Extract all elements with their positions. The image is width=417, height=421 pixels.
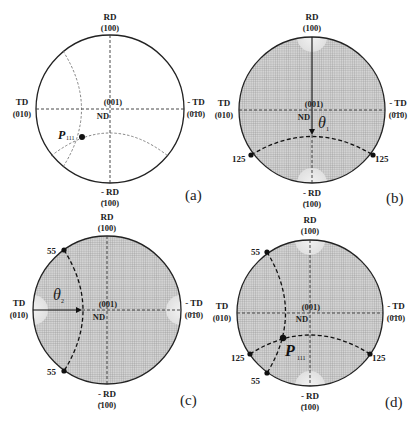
marker-label-55-bottom: 55 — [251, 376, 261, 386]
pole-point-p111 — [280, 335, 286, 341]
panel-tag-d: (d) — [385, 394, 403, 411]
label-center-001: (001) — [302, 302, 321, 312]
label-nd: ND — [97, 111, 109, 121]
label-neg-td-index: (0̄1̄0) — [389, 110, 408, 120]
label-neg-td-index: (0̄1̄0) — [185, 310, 204, 320]
theta-subscript: 2 — [61, 298, 64, 304]
label-rd: RD — [101, 212, 114, 222]
label-rd-index: (100) — [98, 223, 117, 233]
marker-label-55-bottom: 55 — [47, 367, 57, 377]
label-rd-index: (100) — [101, 23, 120, 33]
label-td: TD — [13, 298, 26, 308]
marker-label-125-left: 125 — [231, 353, 245, 363]
label-td: TD — [16, 97, 29, 107]
label-td-index: (010) — [13, 109, 32, 119]
label-rd-index: (100) — [301, 226, 320, 236]
label-neg-rd: - RD — [301, 391, 320, 401]
marker-55-bottom — [61, 368, 66, 373]
marker-55-top — [61, 247, 66, 252]
label-rd: RD — [304, 215, 317, 225]
label-rd: RD — [306, 12, 319, 22]
marker-label-55-top: 55 — [47, 246, 57, 256]
label-neg-rd: - RD — [98, 389, 117, 399]
label-td: TD — [216, 301, 229, 311]
label-td: TD — [218, 98, 231, 108]
pole-label-p: P — [284, 342, 295, 359]
label-neg-td: - TD — [187, 97, 205, 107]
label-rd-index: (100) — [303, 23, 322, 33]
marker-label-125-right: 125 — [375, 154, 389, 164]
pole-label-subscript: 111 — [66, 135, 75, 141]
label-nd: ND — [298, 112, 310, 122]
label-td-index: (010) — [213, 313, 232, 323]
stereographic-projection-figure: P 111 RD (100) - RD (̄100) TD (010) - TD… — [0, 0, 417, 421]
label-center-001: (001) — [305, 99, 324, 109]
label-nd: ND — [93, 312, 105, 322]
pole-label-p: P — [58, 128, 66, 142]
label-neg-rd-index: (̄100) — [101, 198, 120, 208]
label-neg-rd-index: (̄100) — [303, 199, 322, 209]
marker-label-55-top: 55 — [251, 247, 261, 257]
theta-subscript: 1 — [326, 126, 329, 132]
label-neg-rd-index: (̄100) — [98, 400, 117, 410]
panel-tag-c: (c) — [180, 392, 197, 409]
panel-d: 55 55 125 125 P 111 RD (100) - RD (̄100)… — [213, 215, 406, 412]
marker-label-125-left: 125 — [232, 154, 246, 164]
label-rd: RD — [104, 12, 117, 22]
label-neg-td: - TD — [389, 98, 407, 108]
label-neg-rd: - RD — [303, 188, 322, 198]
label-center-001: (001) — [104, 97, 123, 107]
label-nd: ND — [296, 314, 308, 324]
panel-a: P 111 RD (100) - RD (̄100) TD (010) - TD… — [13, 12, 206, 208]
label-neg-td: - TD — [387, 301, 405, 311]
label-center-001: (001) — [99, 299, 118, 309]
marker-55-bottom — [264, 370, 269, 375]
label-neg-td: - TD — [185, 298, 203, 308]
panel-tag-b: (b) — [386, 190, 404, 207]
label-td-index: (010) — [215, 110, 234, 120]
marker-55-top — [264, 249, 269, 254]
pole-label-subscript: 111 — [297, 355, 306, 361]
theta-symbol: θ — [53, 286, 61, 303]
panel-tag-a: (a) — [185, 187, 202, 204]
panel-b: 125 125 θ 1 RD (100) - RD (̄100) TD (010… — [215, 12, 408, 209]
panel-c: 55 55 θ 2 RD (100) - RD (̄100) TD (010) … — [10, 212, 204, 410]
marker-125-left — [248, 152, 253, 157]
theta-symbol: θ — [318, 114, 326, 131]
marker-125-left — [247, 351, 252, 356]
label-neg-rd: - RD — [101, 187, 120, 197]
label-neg-rd-index: (̄100) — [301, 402, 320, 412]
pole-point-p111 — [79, 134, 85, 140]
label-neg-td-index: (0̄1̄0) — [187, 109, 206, 119]
label-neg-td-index: (0̄1̄0) — [387, 313, 406, 323]
marker-label-125-right: 125 — [372, 353, 386, 363]
label-td-index: (010) — [10, 310, 29, 320]
